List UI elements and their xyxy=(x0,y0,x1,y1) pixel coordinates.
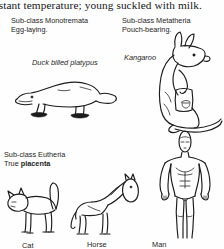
horse-illustration xyxy=(68,172,140,240)
page-header-sentence: nstant temperature; young suckled with m… xyxy=(0,0,224,12)
man-illustration xyxy=(150,128,220,240)
subclass-monotremata-name: Sub-class Monotremata xyxy=(11,16,88,25)
platypus-illustration xyxy=(14,68,119,120)
kangaroo-illustration xyxy=(147,30,224,135)
horse-line-drawing xyxy=(68,172,140,240)
subclass-monotremata-trait: Egg-laying. xyxy=(11,25,88,34)
subclass-caption-eutheria: Sub-class Eutheria True placenta xyxy=(4,150,65,168)
subclass-eutheria-name: Sub-class Eutheria xyxy=(4,150,65,159)
figure-label-platypus: Duck billed platypus xyxy=(32,58,98,67)
human-figure-line-drawing xyxy=(150,128,220,240)
subclass-metatheria-name: Sub-class Metatheria xyxy=(122,16,191,25)
cat-illustration xyxy=(4,180,66,240)
cat-line-drawing xyxy=(4,180,66,240)
figure-label-kangaroo: Kangaroo xyxy=(124,53,156,62)
subclass-eutheria-trait-keyword: placenta xyxy=(21,159,51,168)
figure-label-horse: Horse xyxy=(87,240,107,249)
platypus-line-drawing xyxy=(14,68,119,120)
kangaroo-line-drawing xyxy=(147,30,224,135)
subclass-eutheria-trait: True placenta xyxy=(4,159,65,168)
subclass-caption-monotremata: Sub-class Monotremata Egg-laying. xyxy=(11,16,88,34)
figure-label-cat: Cat xyxy=(22,241,34,249)
subclass-eutheria-trait-prefix: True xyxy=(4,159,21,168)
figure-label-man: Man xyxy=(152,240,166,249)
textbook-page-scan: nstant temperature; young suckled with m… xyxy=(0,0,224,249)
